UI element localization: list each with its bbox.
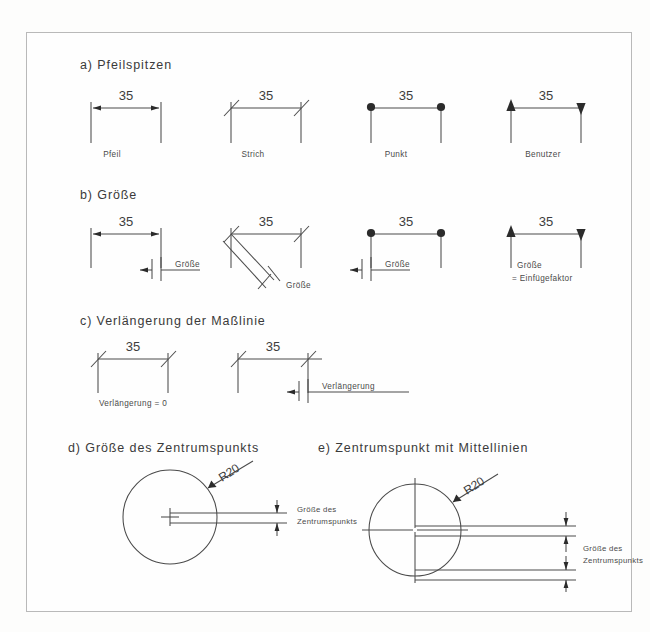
- section-a-caption-1: Pfeil: [103, 150, 121, 159]
- section-d-callout-line1: Größe des: [297, 505, 337, 514]
- section-b-callout-1: Größe: [175, 260, 200, 269]
- dot-terminator-right: [437, 103, 445, 111]
- section-b-heading: b) Größe: [80, 188, 137, 202]
- section-a-variant-benutzer: 35 Benutzer: [506, 88, 585, 159]
- section-b-variant-benutzer: 35 Größe = Einfügefaktor: [506, 214, 585, 283]
- section-a-variant-pfeil: 35 Pfeil: [91, 88, 161, 159]
- section-e-radius-label: R20: [461, 474, 487, 498]
- section-b-callout-3: Größe: [385, 260, 410, 269]
- triangle-terminator-left: [506, 99, 515, 111]
- section-b-callout-4a: Größe: [517, 261, 542, 270]
- drawing-page: a) Pfeilspitzen 35 Pfeil 35 Strich 3: [0, 0, 650, 632]
- section-a-caption-4: Benutzer: [525, 150, 561, 159]
- dot-terminator-left: [367, 103, 375, 111]
- section-e-center-point-with-centerlines: R20 Größe des Zentrumspunkts: [362, 474, 643, 592]
- section-a-caption-3: Punkt: [385, 150, 408, 159]
- section-c-heading: c) Verlängerung der Maßlinie: [80, 314, 266, 328]
- section-c-callout-1: Verlängerung = 0: [99, 399, 167, 408]
- section-b-variant-strich: 35 Größe: [223, 214, 311, 290]
- section-a-variant-strich: 35 Strich: [224, 88, 309, 159]
- section-b-callout-4b: = Einfügefaktor: [512, 274, 573, 283]
- section-c-variant-with-extension: 35 Verlängerung: [231, 339, 409, 403]
- r20-leader-arrow: [208, 481, 217, 488]
- section-c-callout-2: Verlängerung: [322, 382, 375, 391]
- section-b-dim-3: 35: [399, 214, 413, 229]
- section-e-heading: e) Zentrumspunkt mit Mittellinien: [318, 441, 528, 455]
- section-d-callout-line2: Zentrumspunkts: [297, 517, 357, 526]
- section-b-dim-1: 35: [119, 214, 133, 229]
- section-a-caption-2: Strich: [241, 150, 264, 159]
- section-d-heading: d) Größe des Zentrumspunkts: [68, 441, 259, 455]
- section-e-callout-line1: Größe des: [583, 544, 623, 553]
- section-c-dim-1: 35: [126, 339, 140, 354]
- section-b-variant-punkt: 35 Größe: [350, 214, 445, 281]
- section-e-callout-line2: Zentrumspunkts: [583, 556, 643, 565]
- section-a-variant-punkt: 35 Punkt: [367, 88, 445, 159]
- section-b-callout-2: Größe: [286, 281, 311, 290]
- section-a-heading: a) Pfeilspitzen: [80, 58, 172, 72]
- section-b-dim-2: 35: [259, 214, 273, 229]
- r20-leader-arrow-e: [453, 495, 462, 503]
- technical-drawing-canvas: a) Pfeilspitzen 35 Pfeil 35 Strich 3: [0, 0, 650, 632]
- section-a-dim-2: 35: [259, 88, 273, 103]
- section-a-dim-3: 35: [399, 88, 413, 103]
- triangle-terminator-right: [576, 103, 585, 115]
- triangle-terminator-right-b: [576, 229, 585, 241]
- section-b-variant-pfeil: 35 Größe: [91, 214, 200, 281]
- dot-terminator-right-b: [437, 229, 445, 237]
- section-b-dim-4: 35: [539, 214, 553, 229]
- section-a-dim-1: 35: [119, 88, 133, 103]
- section-a-dim-4: 35: [539, 88, 553, 103]
- section-c-dim-2: 35: [266, 339, 280, 354]
- section-d-center-point-size: R20 Größe des Zentrumspunkts: [123, 461, 357, 564]
- section-c-variant-no-extension: 35 Verlängerung = 0: [91, 339, 176, 408]
- dot-terminator-left-b: [367, 229, 375, 237]
- triangle-terminator-left-b: [506, 225, 515, 237]
